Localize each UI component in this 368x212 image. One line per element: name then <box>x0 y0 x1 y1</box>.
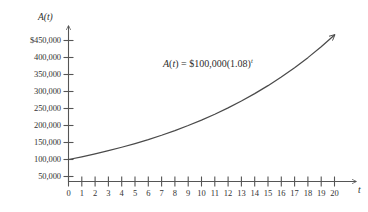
y-tick-label: 400,000 <box>0 53 61 62</box>
y-tick-label: 50,000 <box>0 172 61 181</box>
exponential-curve <box>69 35 335 159</box>
equation-principal: $100,000 <box>189 58 227 69</box>
x-axis-label-text: t <box>358 185 361 195</box>
y-tick-label: 250,000 <box>0 104 61 113</box>
y-tick-label: 100,000 <box>0 155 61 164</box>
y-tick-label: 200,000 <box>0 121 61 130</box>
y-tick-label: $450,000 <box>0 36 61 45</box>
equation-annotation: A(t) = $100,000(1.08)t <box>163 58 253 69</box>
y-tick-label: 350,000 <box>0 70 61 79</box>
equation-equals-sign: = <box>181 58 187 69</box>
equation-exponent: t <box>251 57 253 64</box>
x-axis-label: t <box>358 185 361 195</box>
equation-base: 1.08 <box>230 58 248 69</box>
y-tick-label: 150,000 <box>0 138 61 147</box>
x-axis-group <box>69 177 357 187</box>
x-axis-ticks <box>69 177 335 187</box>
y-axis-label-text: A(t) <box>38 12 53 22</box>
exponential-growth-chart: A(t) t A(t) = $100,000(1.08)t $450,00040… <box>0 0 368 212</box>
y-axis-label: A(t) <box>38 12 53 22</box>
y-tick-label: 300,000 <box>0 87 61 96</box>
x-tick-label: 20 <box>325 189 345 198</box>
